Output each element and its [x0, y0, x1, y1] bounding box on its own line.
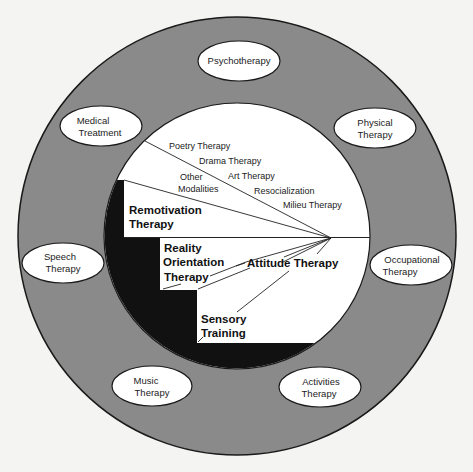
modality-resocialization: Resocialization	[254, 186, 315, 196]
remotivation-line1: Remotivation	[129, 204, 202, 216]
reality-line3: Therapy	[164, 271, 209, 283]
oval-speech-line1: Speech	[44, 251, 76, 262]
oval-medical-line2: Treatment	[79, 127, 122, 138]
oval-activities-line1: Activities	[302, 376, 340, 387]
oval-physical: Physical Therapy	[334, 108, 416, 148]
oval-medical-line1: Medical	[77, 115, 110, 126]
oval-activities-line2: Therapy	[302, 388, 337, 399]
oval-psychotherapy: Psychotherapy	[198, 41, 280, 81]
oval-occupational-line1: Occupational	[384, 254, 439, 265]
reality-line1: Reality	[164, 242, 202, 254]
oval-occupational-line2: Therapy	[383, 266, 418, 277]
oval-music-line2: Therapy	[135, 387, 170, 398]
oval-activities: Activities Therapy	[279, 367, 361, 407]
remotivation-line2: Therapy	[129, 218, 174, 230]
modality-drama: Drama Therapy	[199, 156, 262, 166]
oval-physical-line2: Therapy	[358, 129, 393, 140]
modality-art: Art Therapy	[228, 171, 275, 181]
oval-music: Music Therapy	[112, 366, 192, 406]
modality-poetry: Poetry Therapy	[169, 141, 231, 151]
other-modalities-line2: Modalities	[178, 184, 219, 194]
reality-line2: Orientation	[163, 256, 224, 268]
oval-medical: Medical Treatment	[60, 106, 142, 146]
oval-music-line1: Music	[134, 375, 159, 386]
attitude-label: Attitude Therapy	[247, 257, 339, 269]
oval-speech: Speech Therapy	[22, 243, 104, 283]
other-modalities-line1: Other	[180, 172, 203, 182]
sensory-line1: Sensory	[201, 313, 247, 325]
oval-psychotherapy-label: Psychotherapy	[208, 55, 271, 66]
therapy-diagram: Poetry Therapy Drama Therapy Art Therapy…	[0, 0, 473, 472]
oval-speech-line2: Therapy	[46, 263, 81, 274]
sensory-line2: Training	[201, 327, 246, 339]
oval-physical-line1: Physical	[357, 117, 392, 128]
oval-occupational: Occupational Therapy	[370, 245, 452, 285]
modality-milieu: Milieu Therapy	[283, 200, 342, 210]
